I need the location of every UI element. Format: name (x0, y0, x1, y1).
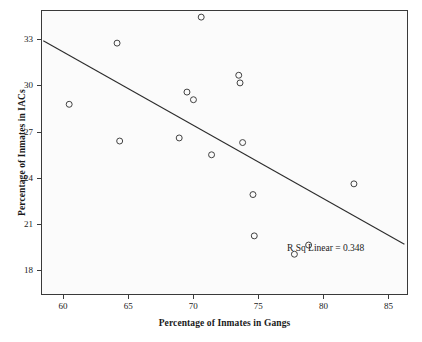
y-tick-mark (37, 178, 41, 179)
data-point (198, 14, 204, 20)
data-point (176, 135, 182, 141)
x-tick-label: 70 (178, 301, 208, 311)
x-tick-label: 60 (48, 301, 78, 311)
y-tick-mark (37, 132, 41, 133)
y-tick-label: 33 (9, 34, 33, 44)
y-tick-label: 18 (9, 265, 33, 275)
x-tick-label: 75 (243, 301, 273, 311)
y-tick-mark (37, 85, 41, 86)
y-tick-mark (37, 270, 41, 271)
y-axis-title: Percentage of Inmates in IACs (14, 10, 30, 295)
x-tick-label: 85 (373, 301, 403, 311)
r-squared-annotation: R Sq Linear = 0.348 (287, 243, 364, 254)
data-point (250, 192, 256, 198)
x-axis-title: Percentage of Inmates in Gangs (41, 318, 408, 328)
y-tick-label: 30 (9, 80, 33, 90)
y-tick-mark (37, 224, 41, 225)
x-tick-mark (128, 295, 129, 299)
data-point (114, 40, 120, 46)
data-point (236, 72, 242, 78)
x-tick-mark (63, 295, 64, 299)
scatter-plot-figure: Percentage of Inmates in IACs 1821242730… (0, 0, 422, 342)
x-tick-mark (258, 295, 259, 299)
data-point (351, 181, 357, 187)
y-tick-label: 27 (9, 127, 33, 137)
y-tick-label: 24 (9, 173, 33, 183)
data-point (66, 101, 72, 107)
x-tick-label: 80 (308, 301, 338, 311)
x-tick-label: 65 (113, 301, 143, 311)
data-point (117, 138, 123, 144)
y-tick-label: 21 (9, 219, 33, 229)
x-tick-mark (388, 295, 389, 299)
y-tick-mark (37, 39, 41, 40)
data-point (190, 97, 196, 103)
data-point (240, 140, 246, 146)
data-point (184, 89, 190, 95)
data-point (251, 233, 257, 239)
x-tick-mark (193, 295, 194, 299)
x-tick-mark (323, 295, 324, 299)
data-point (237, 80, 243, 86)
regression-line (43, 41, 404, 244)
data-point (209, 152, 215, 158)
